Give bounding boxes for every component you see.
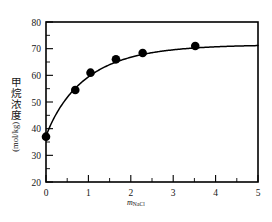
x-tick-label: 5: [256, 188, 261, 198]
x-tick-label: 0: [44, 188, 49, 198]
y-tick-label: 30: [32, 151, 42, 161]
x-axis-label-subscript: NaCl: [133, 201, 145, 207]
data-point: [86, 68, 95, 77]
x-axis-tick-labels: 0 1 2 3 4 5: [44, 188, 261, 198]
data-point: [138, 49, 147, 58]
y-tick-label: 20: [32, 178, 42, 188]
y-axis-tick-labels: 80 70 60 50 40 30 20: [32, 18, 42, 188]
data-point: [42, 132, 51, 141]
chart-figure: 甲烷浓度 (mol/kg) mNaCl: [0, 0, 272, 222]
x-tick-label: 1: [86, 188, 91, 198]
y-tick-label: 80: [32, 18, 42, 28]
y-tick-label: 40: [32, 124, 42, 134]
data-point: [112, 55, 121, 64]
plot-area: 80 70 60 50 40 30 20 0 1 2 3 4 5: [0, 0, 272, 222]
data-point: [71, 86, 80, 95]
y-tick-label: 70: [32, 44, 42, 54]
x-axis-label: mNaCl: [0, 198, 272, 207]
data-point: [191, 42, 200, 51]
y-tick-label: 60: [32, 71, 42, 81]
y-tick-label: 50: [32, 98, 42, 108]
x-tick-label: 2: [128, 188, 133, 198]
x-tick-label: 4: [213, 188, 218, 198]
x-tick-label: 3: [171, 188, 176, 198]
